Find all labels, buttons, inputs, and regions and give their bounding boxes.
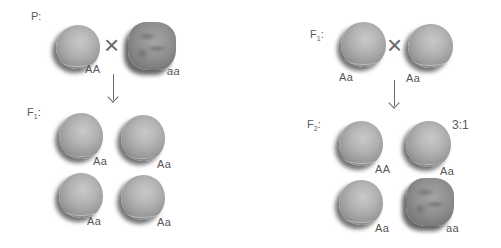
parent-generation-label: P: bbox=[31, 10, 41, 22]
genotype-label: Aa bbox=[339, 71, 353, 83]
genotype-label: Aa bbox=[375, 222, 389, 234]
genotype-label: Aa bbox=[87, 215, 101, 227]
down-arrow-icon bbox=[394, 80, 395, 106]
genotype-label: AA bbox=[375, 163, 391, 175]
round-pea-f2 bbox=[339, 180, 383, 225]
genotype-label: Aa bbox=[440, 165, 454, 177]
down-arrow-icon bbox=[113, 74, 114, 100]
genotype-label: aa bbox=[446, 222, 459, 234]
round-pea-f2 bbox=[339, 121, 383, 166]
wrinkled-pea-parent-aa bbox=[128, 22, 176, 70]
round-pea-parent-Aa bbox=[341, 22, 386, 67]
cross-symbol: × bbox=[387, 32, 402, 58]
f2-generation-label: F2: bbox=[307, 118, 321, 132]
wrinkled-pea-f2 bbox=[406, 178, 454, 226]
round-pea-f1 bbox=[59, 113, 103, 159]
f1-generation-label: F1: bbox=[27, 106, 41, 120]
genotype-label: AA bbox=[85, 63, 101, 75]
round-pea-parent-Aa bbox=[408, 24, 453, 68]
genotype-label: Aa bbox=[93, 155, 107, 167]
genotype-label: aa bbox=[167, 65, 180, 77]
genotype-label: Aa bbox=[157, 158, 171, 170]
round-pea-f1 bbox=[121, 175, 165, 220]
round-pea-f2 bbox=[406, 121, 451, 167]
round-pea-f1 bbox=[59, 173, 103, 218]
round-pea-f1 bbox=[121, 115, 165, 161]
genotype-label: Aa bbox=[406, 72, 420, 84]
ratio-label: 3:1 bbox=[452, 118, 469, 132]
f1-parent-label: F1: bbox=[310, 28, 324, 42]
cross-symbol: × bbox=[104, 32, 119, 58]
genotype-label: Aa bbox=[157, 216, 171, 228]
